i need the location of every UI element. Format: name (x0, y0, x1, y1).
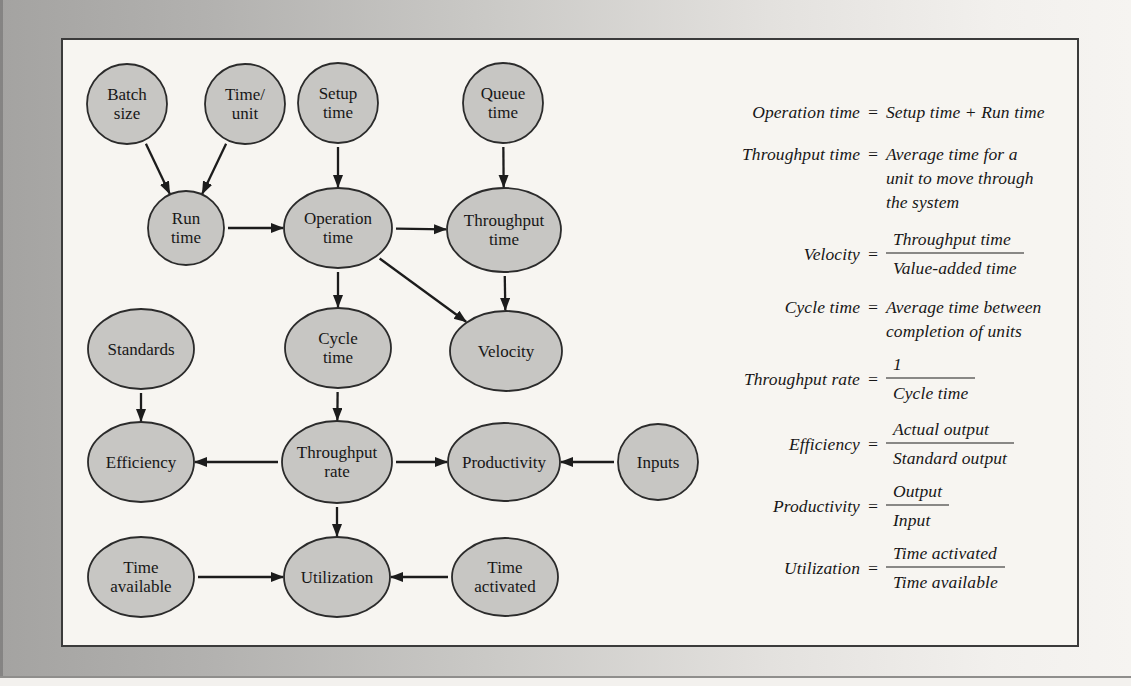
formula-lhs: Operation time (740, 100, 860, 124)
edge-time-per-unit-to-run-time (202, 144, 226, 194)
formula-operation-time: Operation time = Setup time + Run time (740, 100, 1075, 124)
formula-fraction: Actual output Standard output (886, 417, 1014, 470)
edge-throughput-time-to-velocity (505, 276, 506, 310)
node-label: Velocity (478, 342, 535, 361)
formula-line: the system (886, 192, 959, 212)
equals-sign: = (860, 493, 886, 517)
node-label: Productivity (462, 453, 547, 472)
node-time-per-unit: Time/unit (205, 64, 285, 144)
equals-sign: = (860, 555, 886, 579)
formula-lhs: Throughput time (740, 142, 860, 166)
formula-rhs: Setup time + Run time (886, 100, 1045, 124)
edge-batch-size-to-run-time (146, 144, 170, 194)
node-run-time: Runtime (148, 191, 224, 265)
formula-productivity: Productivity = Output Input (740, 479, 1075, 532)
node-label: Setuptime (319, 84, 358, 122)
formula-fraction: Throughput time Value-added time (886, 227, 1024, 280)
fraction-numerator: 1 (886, 352, 975, 379)
formula-lhs: Productivity (740, 493, 860, 517)
node-operation-time: Operationtime (284, 188, 392, 268)
fraction-numerator: Actual output (886, 417, 1014, 444)
equals-sign: = (860, 366, 886, 390)
node-throughput-time: Throughputtime (447, 188, 561, 272)
formula-velocity: Velocity = Throughput time Value-added t… (740, 227, 1075, 280)
fraction-denominator: Time available (886, 568, 1005, 594)
node-efficiency: Efficiency (88, 422, 194, 502)
node-label: Cycletime (318, 329, 358, 367)
formula-line: Average time between (886, 297, 1042, 317)
node-setup-time: Setuptime (298, 63, 378, 143)
page-left-edge (0, 0, 3, 677)
node-utilization: Utilization (284, 537, 390, 617)
formula-fraction: 1 Cycle time (886, 352, 975, 405)
formula-rhs: Average time for a unit to move through … (886, 142, 1034, 214)
node-time-activated: Timeactivated (452, 538, 558, 616)
formula-lhs: Efficiency (740, 431, 860, 455)
formula-line: Average time for a (886, 144, 1018, 164)
node-queue-time: Queuetime (463, 63, 543, 143)
fraction-denominator: Value-added time (886, 254, 1024, 280)
node-batch-size: Batchsize (87, 64, 167, 144)
formula-lhs: Throughput rate (740, 366, 860, 390)
formula-efficiency: Efficiency = Actual output Standard outp… (740, 417, 1075, 470)
node-cycle-time: Cycletime (285, 308, 391, 388)
formula-cycle-time: Cycle time = Average time between comple… (740, 295, 1075, 343)
formula-lhs: Velocity (740, 241, 860, 265)
equals-sign: = (860, 100, 886, 124)
node-label: Efficiency (106, 453, 177, 472)
equals-sign: = (860, 431, 886, 455)
node-time-available: Timeavailable (88, 537, 194, 617)
edge-operation-time-to-velocity (380, 258, 466, 321)
fraction-numerator: Output (886, 479, 949, 506)
formula-fraction: Output Input (886, 479, 949, 532)
formula-line: completion of units (886, 321, 1022, 341)
formula-fraction: Time activated Time available (886, 541, 1005, 594)
node-label: Standards (107, 340, 174, 359)
fraction-numerator: Throughput time (886, 227, 1024, 254)
edge-operation-time-to-throughput-time (396, 229, 446, 230)
formula-throughput-time: Throughput time = Average time for a uni… (740, 142, 1075, 214)
formula-lhs: Utilization (740, 555, 860, 579)
fraction-denominator: Input (886, 506, 949, 532)
node-label: Utilization (301, 568, 374, 587)
page-bottom-margin (0, 678, 1131, 686)
node-velocity: Velocity (450, 311, 562, 391)
node-standards: Standards (88, 309, 194, 389)
equals-sign: = (860, 142, 886, 166)
equals-sign: = (860, 295, 886, 319)
node-label: Inputs (637, 453, 680, 472)
fraction-numerator: Time activated (886, 541, 1005, 568)
equals-sign: = (860, 241, 886, 265)
scanned-textbook-page: BatchsizeTime/unitSetuptimeQueuetimeRunt… (0, 0, 1131, 686)
node-label: Runtime (171, 209, 201, 247)
node-inputs: Inputs (618, 424, 698, 500)
process-metrics-figure: BatchsizeTime/unitSetuptimeQueuetimeRunt… (61, 38, 1079, 647)
formula-line: unit to move through (886, 168, 1034, 188)
node-throughput-rate: Throughputrate (282, 421, 392, 503)
formula-rhs: Average time between completion of units (886, 295, 1042, 343)
node-productivity: Productivity (448, 423, 560, 501)
formula-lhs: Cycle time (740, 295, 860, 319)
formula-utilization: Utilization = Time activated Time availa… (740, 541, 1075, 594)
formula-throughput-rate: Throughput rate = 1 Cycle time (740, 352, 1075, 405)
fraction-denominator: Cycle time (886, 379, 975, 405)
fraction-denominator: Standard output (886, 444, 1014, 470)
